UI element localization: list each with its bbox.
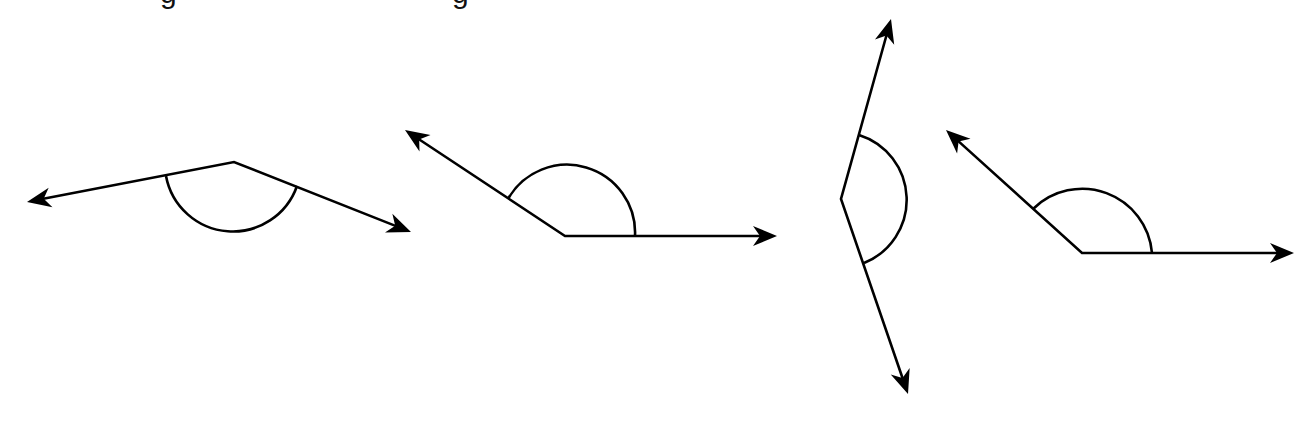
angle-arc-marker (1033, 189, 1152, 253)
arrowhead-icon (405, 130, 431, 152)
angle-arc-marker (166, 176, 297, 231)
angle-arc-marker (508, 165, 635, 236)
angle-arc-marker (859, 135, 907, 263)
angles-figure (0, 0, 1310, 425)
angle-rays (41, 162, 398, 227)
angle-diagram-4 (946, 130, 1294, 263)
angle-rays (417, 138, 763, 236)
angle-rays (956, 139, 1280, 253)
angle-rays (841, 32, 903, 380)
angle-diagram-2 (405, 130, 777, 246)
angle-diagram-1 (27, 162, 411, 232)
angle-diagram-3 (841, 19, 910, 394)
